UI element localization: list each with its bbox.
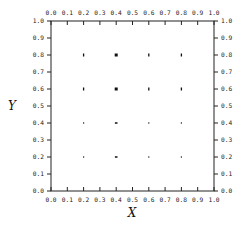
x-tick-label-top: 0.6 xyxy=(143,9,154,16)
y-tick-label-left: 0.6 xyxy=(33,85,44,92)
x-tick-label-bottom: 0.1 xyxy=(62,196,73,203)
data-point xyxy=(83,122,84,123)
y-tick-label-left: 0.4 xyxy=(33,119,44,126)
data-point xyxy=(148,122,149,123)
y-tick-label-right: 1.0 xyxy=(221,17,232,24)
data-point xyxy=(148,54,149,57)
x-tick-label-top: 0.4 xyxy=(111,9,122,16)
data-point xyxy=(148,88,149,91)
y-tick-label-right: 0.0 xyxy=(221,187,232,194)
scatter-chart: 0.00.00.10.10.20.20.30.30.40.40.50.50.60… xyxy=(0,0,243,225)
y-tick-label-left: 0.2 xyxy=(33,153,44,160)
data-point xyxy=(83,156,84,157)
x-tick-label-top: 0.8 xyxy=(176,9,187,16)
x-tick-label-top: 0.1 xyxy=(62,9,73,16)
x-tick-label-top: 0.9 xyxy=(192,9,203,16)
x-axis-label: X xyxy=(127,206,137,220)
x-tick-label-bottom: 0.3 xyxy=(94,196,105,203)
x-tick-label-bottom: 1.0 xyxy=(208,196,219,203)
y-tick-label-right: 0.5 xyxy=(221,102,232,109)
x-tick-label-bottom: 0.8 xyxy=(176,196,187,203)
x-tick-label-bottom: 0.5 xyxy=(127,196,138,203)
y-tick-label-right: 0.3 xyxy=(221,136,232,143)
x-tick-label-bottom: 0.0 xyxy=(45,196,56,203)
data-point xyxy=(115,88,118,91)
y-tick-label-right: 0.8 xyxy=(221,51,232,58)
y-tick-label-left: 0.1 xyxy=(33,170,44,177)
data-point xyxy=(181,88,182,91)
y-tick-label-left: 0.7 xyxy=(33,68,44,75)
x-tick-label-top: 0.2 xyxy=(78,9,89,16)
x-tick-label-bottom: 0.2 xyxy=(78,196,89,203)
y-tick-label-left: 0.0 xyxy=(33,187,44,194)
y-tick-label-right: 0.7 xyxy=(221,68,232,75)
data-point xyxy=(83,54,84,57)
data-point xyxy=(181,54,182,57)
axis-ticks xyxy=(47,21,218,191)
data-point xyxy=(115,54,118,57)
x-tick-label-top: 0.3 xyxy=(94,9,105,16)
data-point xyxy=(181,156,182,157)
y-tick-label-left: 0.5 xyxy=(33,102,44,109)
y-tick-label-left: 0.8 xyxy=(33,51,44,58)
data-point xyxy=(83,88,84,91)
y-axis-label: Y xyxy=(8,99,17,113)
y-tick-label-right: 0.2 xyxy=(221,153,232,160)
x-tick-label-top: 0.5 xyxy=(127,9,138,16)
data-point xyxy=(148,156,149,157)
x-tick-label-top: 0.7 xyxy=(160,9,171,16)
data-point xyxy=(115,122,118,124)
x-tick-label-bottom: 0.7 xyxy=(160,196,171,203)
x-tick-label-bottom: 0.9 xyxy=(192,196,203,203)
x-tick-label-top: 0.0 xyxy=(45,9,56,16)
y-tick-label-left: 1.0 xyxy=(33,17,44,24)
y-tick-label-right: 0.4 xyxy=(221,119,232,126)
data-points xyxy=(83,54,182,158)
y-tick-label-right: 0.9 xyxy=(221,34,232,41)
y-tick-label-right: 0.6 xyxy=(221,85,232,92)
y-tick-label-right: 0.1 xyxy=(221,170,232,177)
x-tick-label-bottom: 0.4 xyxy=(111,196,122,203)
y-tick-label-left: 0.3 xyxy=(33,136,44,143)
plot-frame xyxy=(51,21,214,191)
data-point xyxy=(181,122,182,123)
x-tick-label-top: 1.0 xyxy=(208,9,219,16)
x-tick-label-bottom: 0.6 xyxy=(143,196,154,203)
data-point xyxy=(115,156,118,158)
y-tick-label-left: 0.9 xyxy=(33,34,44,41)
tick-labels: 0.00.00.10.10.20.20.30.30.40.40.50.50.60… xyxy=(33,9,233,203)
